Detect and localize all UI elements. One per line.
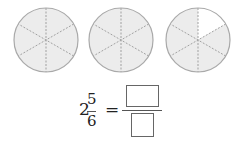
fraction-denominator: 6 — [87, 114, 97, 129]
fraction-circle-2 — [89, 8, 153, 72]
fraction-circle-1 — [14, 8, 78, 72]
equals-sign: = — [105, 101, 119, 118]
answer-fraction-bar — [122, 110, 162, 111]
answer-denominator-box[interactable] — [131, 113, 154, 137]
answer-numerator-box[interactable] — [126, 85, 159, 107]
fraction-numerator: 5 — [87, 92, 97, 107]
fraction-circle-3 — [166, 8, 230, 72]
fraction-circles-figure — [0, 0, 237, 82]
